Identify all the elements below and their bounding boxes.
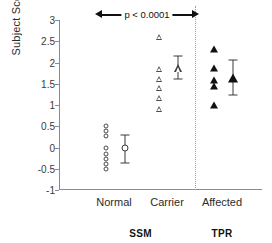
plot-area: 32.521.510.50-0.5-1: [59, 20, 262, 190]
y-tick-mark: [55, 148, 59, 149]
y-tick-label: 2: [49, 57, 55, 68]
data-point: [156, 85, 162, 91]
y-tick-label: 0: [49, 142, 55, 153]
y-tick-label: 1: [49, 100, 55, 111]
data-point: [104, 146, 109, 151]
y-tick-label: 2.5: [41, 36, 55, 47]
group-label-ssm: SSM: [129, 228, 152, 239]
y-tick-label: 0.5: [41, 121, 55, 132]
x-axis-label-affected: Affected: [202, 196, 242, 208]
y-tick-mark: [55, 190, 59, 191]
data-point: [156, 66, 162, 72]
error-bar-cap: [174, 56, 183, 57]
y-tick-mark: [55, 84, 59, 85]
y-tick-label: 1.5: [41, 78, 55, 89]
mean-marker: [122, 144, 129, 151]
significance-annotation: p < 0.0001: [95, 7, 199, 21]
y-tick-mark: [55, 20, 59, 21]
data-point: [210, 64, 218, 71]
data-point: [156, 106, 162, 112]
error-bar-cap: [121, 163, 130, 164]
error-bar-cap: [229, 95, 238, 96]
arrow-right-icon: [192, 10, 199, 18]
x-axis-line: [59, 189, 262, 190]
data-point: [156, 76, 162, 82]
y-tick-mark: [55, 169, 59, 170]
y-axis-line: [59, 20, 60, 190]
data-point: [104, 166, 109, 171]
y-tick-mark: [55, 105, 59, 106]
data-point: [156, 34, 162, 40]
x-axis-label-normal: Normal: [96, 196, 131, 208]
y-tick-label: -0.5: [38, 163, 55, 174]
y-axis-title: Subject Score: [10, 0, 30, 100]
error-bar-cap: [229, 59, 238, 60]
mean-marker: [228, 73, 238, 82]
p-value-label: p < 0.0001: [121, 9, 172, 20]
data-point: [104, 134, 109, 139]
error-bar-cap: [174, 78, 183, 79]
y-tick-mark: [55, 126, 59, 127]
chart-figure: Subject Score 32.521.510.50-0.5-1 p < 0.…: [0, 0, 272, 243]
y-tick-mark: [55, 63, 59, 64]
mean-marker-inner: [176, 67, 180, 72]
data-point: [156, 95, 162, 101]
y-tick-mark: [55, 41, 59, 42]
y-tick-label: 3: [49, 15, 55, 26]
data-point: [210, 46, 218, 53]
data-point: [210, 82, 218, 89]
group-label-tpr: TPR: [212, 228, 233, 239]
data-markers-layer: [59, 20, 262, 56]
group-divider-line: [195, 6, 196, 190]
error-bar-cap: [121, 134, 130, 135]
y-tick-label: -1: [46, 185, 55, 196]
x-axis-label-carrier: Carrier: [150, 196, 184, 208]
data-point: [210, 102, 218, 109]
